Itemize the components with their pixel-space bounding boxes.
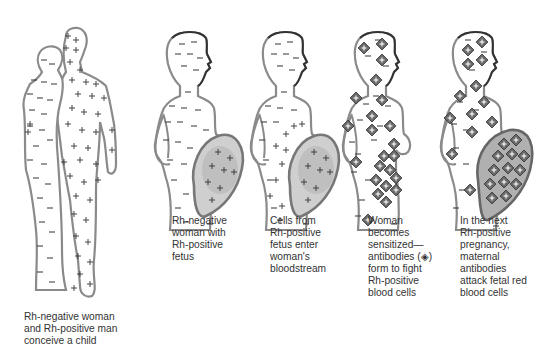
caption-next-pregnancy: In the next Rh-positive pregnancy, mater… (460, 215, 542, 299)
couple-figure (0, 0, 150, 300)
pregnant-woman-transfer-figure (246, 30, 346, 240)
second-pregnancy-figure (436, 30, 536, 240)
caption-pregnancy: Rh-negative woman with Rh-positive fetus (172, 215, 252, 263)
panel-sensitization: Woman becomes sensitized— antibodies (◈)… (342, 0, 442, 351)
caption-conception: Rh-negative woman and Rh-positive man co… (24, 311, 154, 347)
panel-pregnancy: Rh-negative woman with Rh-positive fetus (150, 0, 250, 351)
woman-silhouette (23, 46, 66, 290)
panel-conception: Rh-negative woman and Rh-positive man co… (0, 0, 150, 351)
panel-next-pregnancy: In the next Rh-positive pregnancy, mater… (442, 0, 542, 351)
sensitized-woman-figure (338, 30, 438, 240)
pregnant-woman-figure (150, 30, 250, 240)
panel-cell-transfer: Cells from Rh-positive fetus enter woman… (250, 0, 342, 351)
